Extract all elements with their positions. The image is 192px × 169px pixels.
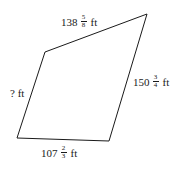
numerator: 5 [82,14,86,21]
side-label-bottom: 107 23 ft [41,145,77,160]
unit: ft [71,147,78,159]
unknown-length: ? ft [10,87,24,99]
side-label-top: 138 58 ft [61,14,97,29]
whole-number: 138 [61,16,78,28]
side-label-left: ? ft [10,87,24,99]
whole-number: 107 [41,147,58,159]
fraction: 58 [81,14,87,29]
whole-number: 150 [133,76,150,88]
fraction: 23 [61,145,67,160]
numerator: 2 [62,145,66,152]
unit: ft [163,76,170,88]
fraction: 34 [153,74,159,89]
numerator: 3 [154,74,158,81]
unit: ft [91,16,98,28]
quadrilateral-outline [17,14,147,141]
denominator: 3 [62,153,66,160]
denominator: 4 [154,82,158,89]
denominator: 8 [82,22,86,29]
side-label-right: 150 34 ft [133,74,169,89]
